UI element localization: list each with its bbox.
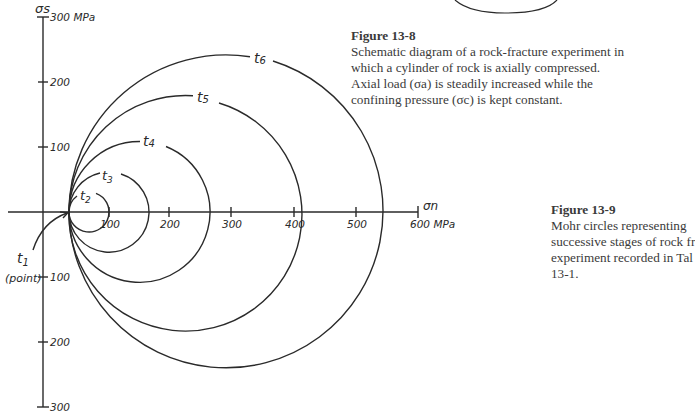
- label-t5: t5: [197, 89, 209, 105]
- y-tick-100: 100: [50, 141, 70, 153]
- figure-13-9-line-3: experiment recorded in Tal: [551, 250, 671, 266]
- label-t3: t3: [102, 168, 113, 185]
- figure-13-8-title: Figure 13-8: [351, 28, 631, 44]
- x-tick-200: 200: [160, 218, 180, 230]
- mohr-circle-t5: [69, 95, 302, 331]
- y-tick-neg-100: 100: [50, 271, 70, 283]
- figure-13-8-text: Schematic diagram of a rock-fracture exp…: [351, 44, 624, 107]
- label-t2: t2: [80, 188, 91, 205]
- y-axis-label: σs: [35, 1, 50, 16]
- x-axis-label: σn: [423, 199, 438, 213]
- y-tick-neg-200: 200: [50, 336, 70, 348]
- y-tick-neg-300: 300: [50, 401, 70, 411]
- t1-point-note: (point): [5, 272, 42, 285]
- x-tick-500: 500: [347, 218, 367, 230]
- label-t4: t4: [143, 133, 155, 149]
- figure-13-8-caption: Figure 13-8 Schematic diagram of a rock-…: [351, 28, 631, 108]
- rock-cylinder-ellipse-fragment: [455, 0, 557, 13]
- figure-13-9-caption: Figure 13-9 Mohr circles representing su…: [551, 202, 671, 282]
- figure-13-9-line-4: 13-1.: [551, 266, 671, 282]
- label-t1: t1: [17, 250, 29, 268]
- figure-13-9-title: Figure 13-9: [551, 202, 671, 218]
- x-tick-300: 300: [222, 218, 242, 230]
- t1-arrow: [33, 213, 67, 250]
- figure-13-9-line-1: Mohr circles representing: [551, 218, 671, 234]
- y-unit-label: 300 MPa: [50, 11, 95, 23]
- y-tick-200: 200: [50, 76, 70, 88]
- x-unit-label: 600 MPa: [410, 218, 455, 230]
- x-tick-400: 400: [285, 218, 305, 230]
- label-t6: t6: [254, 50, 266, 66]
- x-tick-100: 100: [100, 218, 120, 230]
- figure-13-9-line-2: successive stages of rock fr: [551, 234, 671, 250]
